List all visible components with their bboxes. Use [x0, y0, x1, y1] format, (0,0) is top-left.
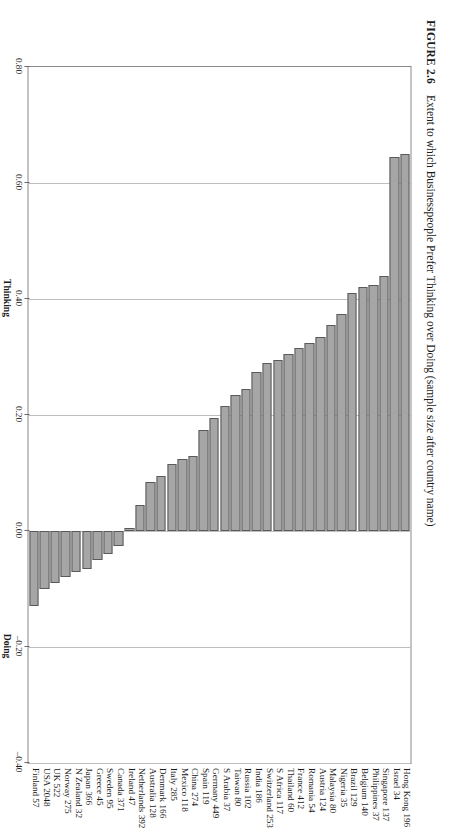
category-label: Brazil 129	[348, 768, 358, 832]
bar	[336, 314, 345, 532]
value-axis: 0.800.600.400.200.00–0.20–0.40ThinkingDo…	[1, 66, 29, 762]
category-label: Hong Kong 196	[401, 768, 411, 832]
bar	[124, 528, 133, 531]
category-label: UK 522	[51, 768, 61, 832]
axis-tick	[24, 530, 29, 531]
category-label: Nigeria 35	[337, 768, 347, 832]
category-label: Netherlands 392	[136, 768, 146, 832]
bar	[251, 372, 260, 532]
axis-tick-label: –0.40	[13, 752, 23, 773]
bar	[156, 476, 165, 531]
category-label: USA 2048	[40, 768, 50, 832]
bar	[114, 531, 123, 546]
category-label: Thailand 60	[284, 768, 294, 832]
category-label: Romania 54	[305, 768, 315, 832]
bar	[135, 505, 144, 531]
figure-caption-text: Extent to which Businesspeople Prefer Th…	[424, 95, 436, 527]
category-label: Italy 285	[167, 768, 177, 832]
figure-caption: FIGURE 2.6Extent to which Businesspeople…	[423, 20, 437, 800]
axis-tick	[24, 646, 29, 647]
bar	[60, 531, 69, 577]
axis-tick-label: –0.20	[13, 636, 23, 657]
category-label: India 186	[252, 768, 262, 832]
chart-plot-area	[27, 66, 411, 764]
bar	[167, 464, 176, 531]
axis-label-thinking: Thinking	[1, 279, 12, 317]
bar	[389, 157, 398, 531]
category-label: Belgium 140	[358, 768, 368, 832]
category-label: China 274	[189, 768, 199, 832]
category-label: Ireland 47	[125, 768, 135, 832]
figure-number: FIGURE 2.6	[424, 20, 436, 84]
category-label: N Zealand 32	[72, 768, 82, 832]
axis-tick	[24, 298, 29, 299]
category-labels: Hong Kong 196Israel 34Singapore 137Phili…	[29, 768, 411, 832]
axis-tick-label: 0.00	[13, 522, 23, 538]
bar	[294, 348, 303, 531]
category-label: S Africa 117	[274, 768, 284, 832]
bar	[103, 531, 112, 554]
category-label: Spain 119	[199, 768, 209, 832]
bar	[368, 285, 377, 532]
bar	[145, 482, 154, 531]
bar	[273, 360, 282, 531]
bar	[198, 430, 207, 532]
axis-tick	[24, 762, 29, 763]
axis-tick-label: 0.40	[13, 290, 23, 306]
bar	[262, 363, 271, 531]
bar	[50, 531, 59, 583]
gridline	[28, 763, 410, 764]
bar	[326, 325, 335, 531]
bar	[82, 531, 91, 569]
axis-tick-label: 0.80	[13, 58, 23, 74]
bar	[220, 406, 229, 531]
category-label: Greece 45	[93, 768, 103, 832]
category-label: Singapore 137	[380, 768, 390, 832]
axis-tick-label: 0.20	[13, 406, 23, 422]
category-label: Australia 128	[146, 768, 156, 832]
bar	[379, 276, 388, 531]
bar	[92, 531, 101, 560]
bar	[188, 456, 197, 531]
category-label: Mexico 118	[178, 768, 188, 832]
category-label: Finland 57	[30, 768, 40, 832]
axis-tick-label: 0.60	[13, 174, 23, 190]
category-label: Switzerland 253	[263, 768, 273, 832]
bar	[177, 459, 186, 532]
bar-series	[28, 67, 410, 763]
category-label: Germany 449	[210, 768, 220, 832]
category-label: Japan 366	[83, 768, 93, 832]
bar	[39, 531, 48, 589]
category-label: Taiwan 80	[231, 768, 241, 832]
category-label: Russia 102	[242, 768, 252, 832]
category-label: Norway 275	[61, 768, 71, 832]
category-label: Sweden 95	[104, 768, 114, 832]
axis-tick	[24, 414, 29, 415]
category-label: Canada 371	[114, 768, 124, 832]
bar	[347, 293, 356, 531]
category-label: France 412	[295, 768, 305, 832]
bar	[209, 418, 218, 531]
bar	[400, 154, 409, 531]
axis-tick	[24, 66, 29, 67]
category-label: Israel 34	[390, 768, 400, 832]
bar	[315, 337, 324, 531]
category-label: Malaysia 80	[327, 768, 337, 832]
category-label: S Arabia 37	[221, 768, 231, 832]
bar	[358, 287, 367, 531]
bar	[305, 343, 314, 532]
bar	[71, 531, 80, 572]
bar	[241, 389, 250, 531]
category-label: Austria 124	[316, 768, 326, 832]
category-label: Denmark 166	[157, 768, 167, 832]
category-label: Philippines 37	[369, 768, 379, 832]
axis-tick	[24, 182, 29, 183]
bar	[283, 354, 292, 531]
bar	[29, 531, 38, 606]
bar	[230, 395, 239, 531]
axis-label-doing: Doing	[1, 634, 12, 659]
